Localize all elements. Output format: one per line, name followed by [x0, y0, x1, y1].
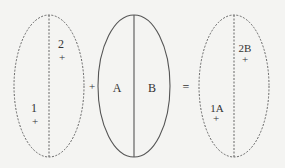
middle-ellipse-group: A B: [98, 15, 170, 157]
half-label-b: B: [148, 81, 156, 95]
point-label-2: 2: [58, 37, 64, 51]
point-label-1: 1: [31, 101, 37, 115]
point-marker-1: +: [32, 115, 38, 127]
point-marker-2b: +: [242, 53, 248, 65]
right-ellipse-group: 2B + 1A +: [199, 15, 269, 157]
point-marker-1a: +: [213, 112, 219, 124]
ellipse-combination-diagram: 2 + 1 + + A B = 2B + 1A +: [0, 0, 285, 168]
equals-operator: =: [183, 80, 190, 94]
half-label-a: A: [113, 81, 122, 95]
left-ellipse-group: 2 + 1 +: [14, 15, 84, 157]
point-marker-2: +: [59, 51, 65, 63]
plus-operator: +: [89, 80, 95, 92]
